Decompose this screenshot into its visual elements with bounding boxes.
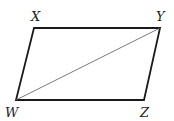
vertex-label-y: Y — [156, 9, 166, 24]
vertex-label-x: X — [30, 9, 41, 24]
diagonal-wy — [16, 28, 160, 100]
vertex-label-w: W — [5, 105, 20, 120]
vertex-label-z: Z — [139, 105, 150, 120]
parallelogram-diagram: X Y W Z — [0, 0, 174, 121]
